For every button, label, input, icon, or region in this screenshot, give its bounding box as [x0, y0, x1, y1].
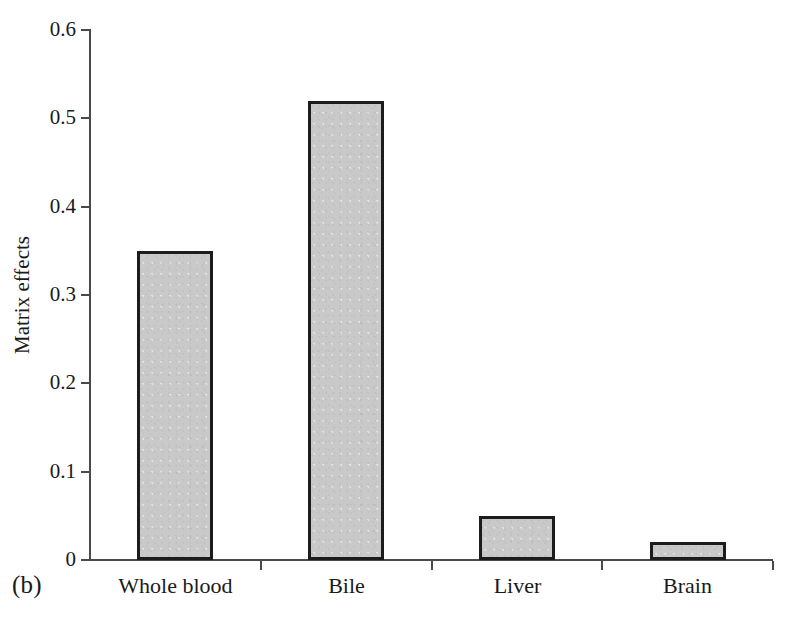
- x-tick-mark: [772, 561, 774, 570]
- figure-panel-b: (b) Matrix effects 00.10.20.30.40.50.6 W…: [0, 0, 793, 619]
- y-tick-mark: [81, 206, 90, 208]
- y-tick-label: 0.5: [6, 107, 76, 128]
- x-category-label: Bile: [261, 572, 432, 599]
- x-tick-mark: [260, 561, 262, 570]
- y-tick-mark: [81, 117, 90, 119]
- y-tick-mark: [81, 559, 90, 561]
- y-tick-label: 0.3: [6, 284, 76, 305]
- y-tick-label: 0.2: [6, 372, 76, 393]
- x-tick-mark: [431, 561, 433, 570]
- bar: [308, 101, 384, 560]
- panel-label: (b): [12, 570, 42, 600]
- bar: [650, 542, 726, 560]
- y-tick-mark: [81, 294, 90, 296]
- y-tick-label: 0: [6, 549, 76, 570]
- y-tick-mark: [81, 382, 90, 384]
- y-tick-mark: [81, 471, 90, 473]
- x-category-label: Liver: [432, 572, 603, 599]
- y-tick-label: 0.1: [6, 461, 76, 482]
- y-tick-label: 0.4: [6, 196, 76, 217]
- bar: [479, 516, 555, 560]
- x-category-label: Whole blood: [90, 572, 261, 599]
- y-tick-label: 0.6: [6, 19, 76, 40]
- x-tick-mark: [601, 561, 603, 570]
- y-tick-mark: [81, 29, 90, 31]
- bar: [137, 251, 213, 560]
- x-category-label: Brain: [602, 572, 773, 599]
